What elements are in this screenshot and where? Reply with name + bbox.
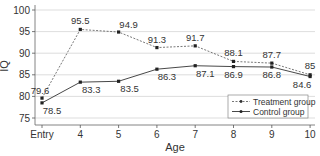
data-label: 91.3	[148, 34, 167, 45]
data-label: 91.7	[186, 32, 205, 43]
legend-treatment-marker	[240, 100, 243, 103]
data-label: 79.6	[31, 85, 50, 96]
legend-treatment-label: Treatment group	[253, 97, 316, 107]
data-label: 83.5	[120, 83, 139, 94]
iq-line-chart: 7580859095100 Entry45678910 79.695.594.9…	[0, 0, 320, 156]
data-point-marker	[155, 46, 158, 49]
y-tick-label: 95	[19, 26, 31, 37]
data-label: 83.3	[82, 84, 101, 95]
data-label: 78.5	[43, 105, 62, 116]
data-label: 87.7	[263, 49, 282, 60]
y-tick-label: 90	[19, 48, 31, 59]
data-label: 87.1	[196, 68, 215, 79]
x-tick-label: 10	[305, 129, 317, 140]
x-tick-label: 4	[78, 129, 84, 140]
legend: Treatment group Control group	[228, 95, 316, 118]
y-tick-label: 80	[19, 91, 31, 102]
data-label: 86.8	[263, 69, 282, 80]
y-tick-label: 85	[19, 69, 31, 80]
data-point-marker	[117, 30, 120, 33]
data-point-marker	[79, 28, 82, 31]
data-label: 85	[305, 60, 316, 71]
legend-control-marker	[240, 110, 243, 113]
data-label: 84.6	[293, 79, 312, 90]
x-axis-ticks: Entry45678910	[30, 125, 316, 140]
y-axis-ticks: 7580859095100	[13, 5, 35, 124]
legend-control-label: Control group	[253, 107, 305, 117]
y-tick-label: 100	[13, 5, 30, 16]
x-tick-label: 8	[231, 129, 237, 140]
x-axis-label: Age	[165, 141, 185, 153]
data-label: 86.9	[224, 69, 243, 80]
data-label: 94.9	[119, 19, 138, 30]
data-point-marker	[232, 60, 235, 63]
y-tick-label: 75	[19, 113, 31, 124]
data-point-marker	[40, 97, 43, 100]
x-tick-label: 5	[116, 129, 122, 140]
data-label: 88.1	[224, 47, 243, 58]
data-point-marker	[194, 44, 197, 47]
y-axis-label: IQ	[0, 60, 10, 72]
x-tick-label: 6	[154, 129, 160, 140]
x-tick-label: 7	[192, 129, 198, 140]
x-tick-label: Entry	[30, 129, 53, 140]
x-tick-label: 9	[269, 129, 275, 140]
data-label: 86.3	[158, 71, 177, 82]
data-label: 95.5	[71, 15, 90, 26]
data-point-marker	[270, 62, 273, 65]
